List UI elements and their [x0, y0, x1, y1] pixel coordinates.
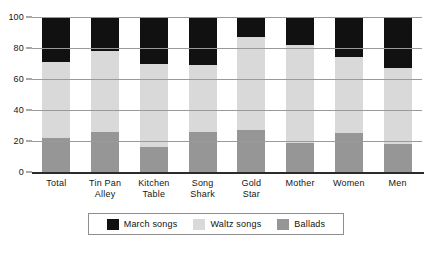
legend-swatch-icon	[277, 219, 289, 230]
bar-segment	[384, 144, 412, 172]
x-axis-labels: TotalTin PanAlleyKitchenTableSongSharkGo…	[32, 178, 422, 200]
x-tick-label-line: Kitchen	[130, 178, 179, 189]
bar-column	[227, 17, 276, 172]
bar-column	[276, 17, 325, 172]
bar-segment	[237, 37, 265, 130]
x-tick-label: Mother	[276, 178, 325, 200]
y-tick-label: 20	[14, 137, 24, 146]
bar-column	[325, 17, 374, 172]
bar-segment	[140, 17, 168, 64]
y-tick-mark	[26, 79, 32, 80]
bars-layer	[32, 17, 422, 172]
bar-segment	[42, 62, 70, 138]
y-axis: 020406080100	[0, 0, 24, 175]
stacked-bar-chart: 020406080100 TotalTin PanAlleyKitchenTab…	[0, 0, 431, 257]
x-tick-label: Men	[373, 178, 422, 200]
x-tick-label: Total	[32, 178, 81, 200]
x-axis-line	[32, 172, 424, 174]
x-tick-label-line: Alley	[81, 189, 130, 200]
gridline	[32, 17, 422, 18]
bar-segment	[91, 132, 119, 172]
x-tick-label-line: Song	[178, 178, 227, 189]
bar-stack	[286, 17, 314, 172]
legend-swatch-icon	[193, 219, 205, 230]
bar-column	[373, 17, 422, 172]
bar-segment	[140, 147, 168, 172]
bar-segment	[91, 51, 119, 132]
bar-stack	[335, 17, 363, 172]
y-tick-label: 40	[14, 106, 24, 115]
bar-column	[178, 17, 227, 172]
bar-stack	[384, 17, 412, 172]
y-tick-label: 100	[8, 13, 24, 22]
legend-item[interactable]: Waltz songs	[193, 219, 261, 230]
bar-stack	[91, 17, 119, 172]
x-tick-label-line: Tin Pan	[81, 178, 130, 189]
legend-label: Waltz songs	[210, 219, 261, 229]
x-tick-label-line: Men	[373, 178, 422, 189]
bar-segment	[286, 17, 314, 45]
bar-segment	[42, 17, 70, 62]
x-tick-label-line: Shark	[178, 189, 227, 200]
bar-stack	[189, 17, 217, 172]
bar-segment	[42, 138, 70, 172]
y-tick-mark	[26, 172, 32, 173]
x-tick-label: Women	[325, 178, 374, 200]
legend-label: Ballads	[294, 219, 325, 229]
gridline	[32, 110, 422, 111]
bar-segment	[237, 17, 265, 37]
x-tick-label-line: Table	[130, 189, 179, 200]
bar-segment	[189, 132, 217, 172]
x-tick-label: Tin PanAlley	[81, 178, 130, 200]
x-tick-label: SongShark	[178, 178, 227, 200]
bar-segment	[140, 64, 168, 148]
x-tick-label-line: Gold	[227, 178, 276, 189]
y-tick-mark	[26, 141, 32, 142]
x-tick-label-line: Total	[32, 178, 81, 189]
gridline	[32, 48, 422, 49]
plot-wrapper: 020406080100 TotalTin PanAlleyKitchenTab…	[0, 0, 431, 200]
plot-area	[32, 17, 422, 172]
bar-segment	[91, 17, 119, 51]
y-tick-label: 0	[19, 168, 24, 177]
chart-legend: March songsWaltz songsBallads	[88, 213, 344, 235]
bar-segment	[286, 143, 314, 172]
x-tick-label-line: Mother	[276, 178, 325, 189]
y-tick-mark	[26, 17, 32, 18]
bar-column	[32, 17, 81, 172]
legend-item[interactable]: Ballads	[277, 219, 325, 230]
bar-column	[130, 17, 179, 172]
x-tick-label: GoldStar	[227, 178, 276, 200]
bar-segment	[189, 65, 217, 132]
bar-segment	[189, 17, 217, 65]
bar-segment	[335, 57, 363, 133]
bar-segment	[335, 133, 363, 172]
x-tick-label-line: Star	[227, 189, 276, 200]
legend-item[interactable]: March songs	[107, 219, 178, 230]
x-tick-label: KitchenTable	[130, 178, 179, 200]
bar-stack	[237, 17, 265, 172]
bar-stack	[140, 17, 168, 172]
gridline	[32, 141, 422, 142]
gridline	[32, 79, 422, 80]
bar-stack	[42, 17, 70, 172]
y-tick-mark	[26, 110, 32, 111]
bar-column	[81, 17, 130, 172]
bar-segment	[286, 45, 314, 143]
y-tick-mark	[26, 48, 32, 49]
y-tick-label: 80	[14, 44, 24, 53]
x-tick-label-line: Women	[325, 178, 374, 189]
legend-label: March songs	[124, 219, 178, 229]
y-tick-label: 60	[14, 75, 24, 84]
bar-segment	[384, 17, 412, 68]
legend-swatch-icon	[107, 219, 119, 230]
bar-segment	[237, 130, 265, 172]
bar-segment	[335, 17, 363, 57]
